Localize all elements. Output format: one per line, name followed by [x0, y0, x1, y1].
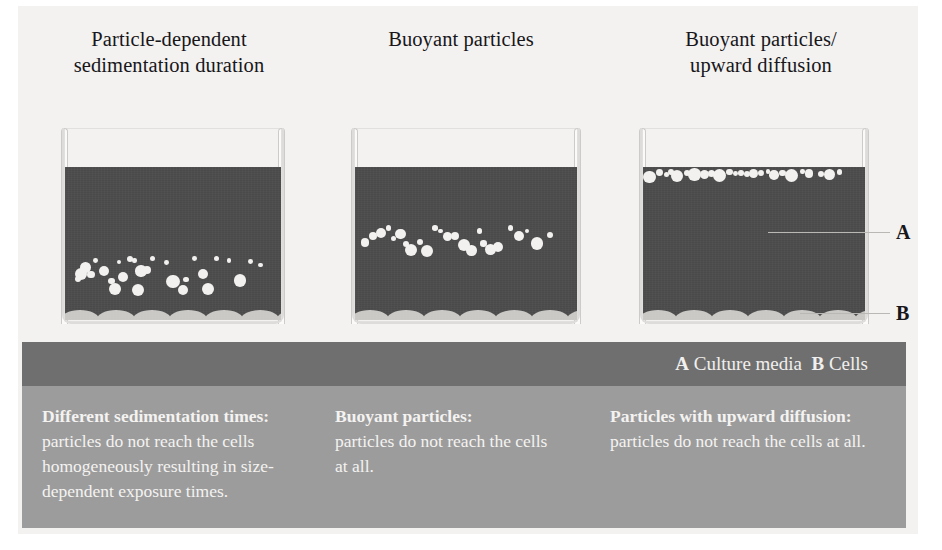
- cell: [747, 310, 785, 320]
- particle: [143, 266, 151, 274]
- legend-key-b: B: [812, 353, 825, 374]
- particle: [118, 272, 128, 282]
- particle: [800, 169, 804, 173]
- particle: [671, 170, 683, 182]
- particle: [202, 283, 214, 295]
- particle: [824, 169, 835, 180]
- particle: [451, 232, 459, 240]
- particle: [508, 225, 514, 231]
- cell-monolayer: [355, 309, 577, 320]
- particle: [234, 274, 247, 287]
- particle: [547, 232, 553, 238]
- cell: [65, 310, 99, 320]
- culture-media-fill: [355, 167, 577, 320]
- cell: [855, 310, 865, 320]
- particle: [227, 258, 231, 262]
- cell: [459, 310, 497, 320]
- cell: [97, 310, 135, 320]
- cell: [133, 310, 171, 320]
- particle: [361, 238, 370, 247]
- legend-value-a: Culture media: [694, 353, 802, 374]
- caption-band: Different sedimentation times: particles…: [22, 386, 906, 528]
- cell: [205, 310, 243, 320]
- particle: [643, 171, 656, 184]
- particle: [805, 169, 814, 178]
- particle: [466, 245, 476, 255]
- particle: [837, 169, 842, 174]
- particle: [688, 168, 700, 180]
- figure-root: Particle-dependent sedimentation duratio…: [0, 0, 942, 550]
- cell: [277, 310, 281, 320]
- cell: [423, 310, 461, 320]
- cell: [387, 310, 425, 320]
- cell: [169, 310, 207, 320]
- particle: [93, 258, 98, 263]
- caption-lead-2: Buoyant particles:: [335, 404, 563, 429]
- particle: [417, 239, 423, 245]
- particle: [132, 258, 136, 262]
- particle: [713, 169, 727, 183]
- column-title-3: Buoyant particles/ upward diffusion: [630, 26, 892, 78]
- particle: [192, 256, 197, 261]
- caption-lead-1: Different sedimentation times:: [42, 404, 312, 429]
- particle: [99, 266, 109, 276]
- particle: [376, 228, 386, 238]
- caption-body-3: particles do not reach the cells at all.: [610, 429, 892, 454]
- column-title-2: Buoyant particles: [330, 26, 592, 52]
- particle: [769, 170, 779, 180]
- beaker-particle-dependent-sedimentation: [62, 128, 284, 324]
- particle: [178, 285, 188, 295]
- particle: [514, 231, 524, 241]
- particle: [183, 277, 188, 282]
- cell: [531, 310, 569, 320]
- particle: [198, 269, 208, 279]
- cell: [783, 310, 821, 320]
- callout-label-a: A: [896, 221, 910, 244]
- cell: [241, 310, 279, 320]
- particle: [166, 275, 179, 288]
- cell: [675, 310, 713, 320]
- column-title-3-line1: Buoyant particles/: [630, 26, 892, 52]
- particle: [749, 169, 758, 178]
- particle: [214, 256, 219, 261]
- callout-leader-line-b: [800, 313, 890, 314]
- caption-column-2: Buoyant particles: particles do not reac…: [335, 404, 563, 479]
- column-title-2-line1: Buoyant particles: [330, 26, 592, 52]
- legend-value-b: Cells: [829, 353, 868, 374]
- particle: [258, 263, 263, 268]
- particle: [656, 169, 663, 176]
- particle: [109, 283, 121, 295]
- column-title-1-line2: sedimentation duration: [38, 52, 300, 78]
- caption-column-1: Different sedimentation times: particles…: [42, 404, 312, 503]
- particle: [726, 169, 733, 176]
- cell: [819, 310, 857, 320]
- particle: [405, 244, 417, 256]
- particle: [248, 259, 253, 264]
- callout-label-b: B: [896, 302, 909, 325]
- legend-band: A Culture media B Cells: [22, 342, 906, 386]
- cell: [355, 310, 389, 320]
- particle: [421, 245, 433, 257]
- particle: [531, 237, 544, 250]
- cell-monolayer: [65, 309, 281, 320]
- caption-body-2: particles do not reach the cells at all.: [335, 429, 563, 479]
- culture-media-fill: [65, 167, 281, 320]
- particle: [493, 242, 503, 252]
- particle: [395, 229, 405, 239]
- column-title-1: Particle-dependent sedimentation duratio…: [38, 26, 300, 78]
- particle: [150, 256, 155, 261]
- particle: [785, 169, 798, 182]
- particle: [164, 260, 169, 265]
- particle: [432, 225, 438, 231]
- particle: [87, 271, 94, 278]
- legend-key-a: A: [675, 353, 689, 374]
- particle: [818, 171, 824, 177]
- column-title-3-line2: upward diffusion: [630, 52, 892, 78]
- beaker-buoyant-particles: [352, 128, 580, 324]
- legend-text: A Culture media B Cells: [675, 353, 868, 375]
- particle: [525, 229, 530, 234]
- beaker-buoyant-particles-upward-diffusion: [640, 128, 868, 324]
- particle: [75, 268, 87, 280]
- cell: [495, 310, 533, 320]
- cell-monolayer: [643, 309, 865, 320]
